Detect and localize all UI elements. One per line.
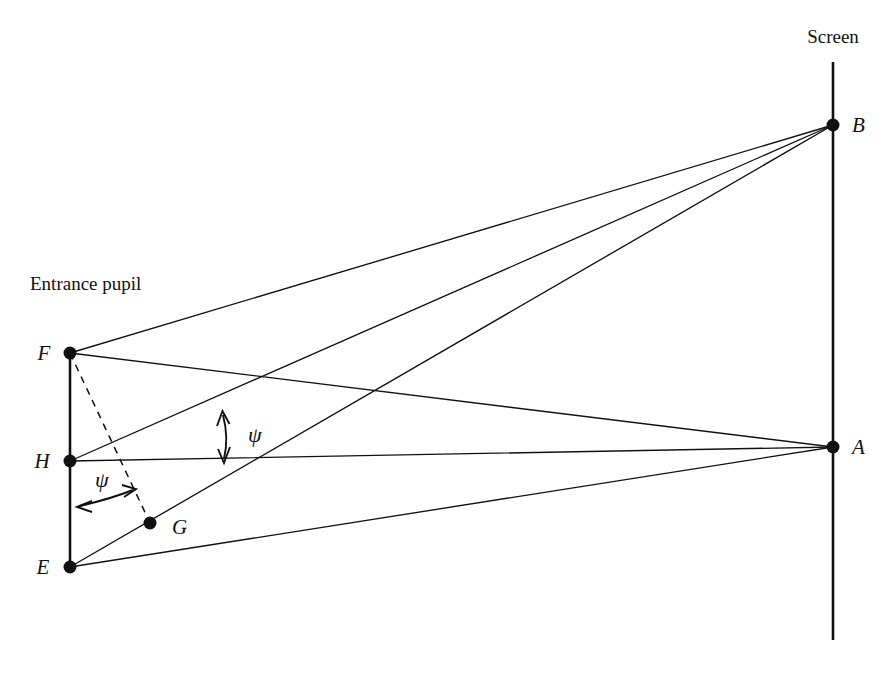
point-label-B: B [852, 113, 865, 137]
entrance-pupil-caption: Entrance pupil [30, 273, 141, 294]
figure-root: ψ ψ F H E G B A Screen Entra [0, 0, 894, 673]
ray-F-to-B [70, 125, 833, 353]
point-label-H: H [33, 449, 51, 473]
ray-group [70, 125, 833, 567]
point-label-F: F [37, 341, 51, 365]
psi-upper-arc [223, 415, 226, 459]
point-label-E: E [36, 555, 50, 579]
ray-F-to-A [70, 353, 833, 447]
node-dot-B [827, 119, 840, 132]
node-dot-G [144, 517, 157, 530]
ray-H-to-A [70, 447, 833, 461]
ray-H-to-B [70, 125, 833, 461]
optics-ray-diagram: ψ ψ F H E G B A Screen Entra [0, 0, 894, 673]
angle-marker-psi-upper: ψ [217, 411, 262, 463]
node-dot-E [64, 561, 77, 574]
psi-lower-arrowhead-left [77, 501, 92, 512]
psi-upper-label: ψ [248, 422, 262, 447]
point-label-G: G [172, 515, 187, 539]
ray-E-to-A [70, 447, 833, 567]
node-dot-A [827, 441, 840, 454]
ray-E-to-B [70, 125, 833, 567]
screen-caption: Screen [807, 26, 859, 47]
psi-lower-label: ψ [95, 467, 109, 492]
point-label-A: A [850, 435, 865, 459]
node-dot-F [64, 347, 77, 360]
node-dot-H [64, 455, 77, 468]
point-label-group: F H E G B A [33, 113, 865, 579]
